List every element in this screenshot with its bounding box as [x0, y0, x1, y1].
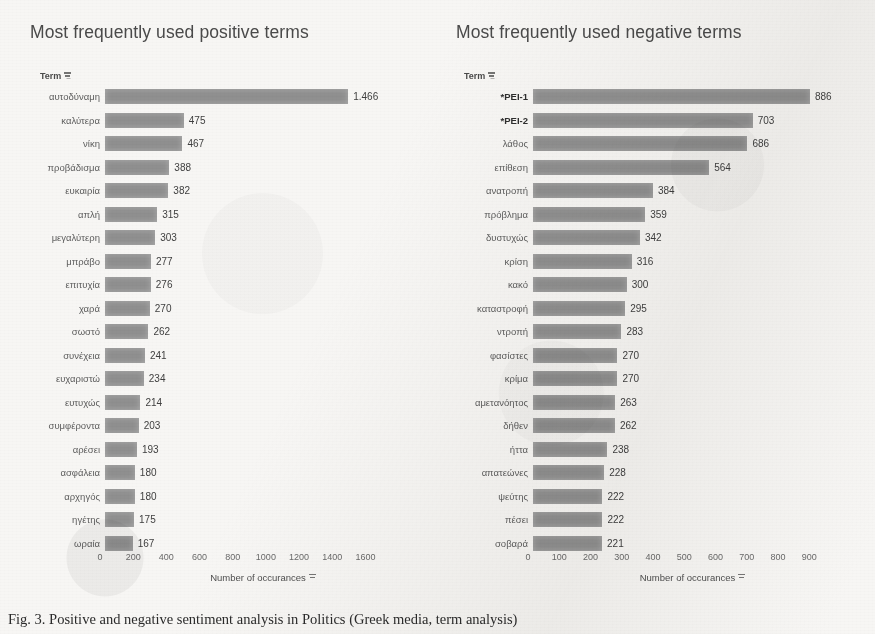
filter-icon[interactable]	[309, 574, 316, 582]
bar[interactable]	[105, 160, 169, 175]
bar[interactable]	[533, 418, 615, 433]
bar-value-label: 238	[612, 444, 629, 455]
bar-row: επιτυχία276	[0, 273, 440, 297]
bar-row-term-label: χαρά	[0, 303, 105, 314]
bar-track: 263	[533, 391, 875, 415]
filter-icon[interactable]	[64, 72, 71, 80]
bar[interactable]	[105, 324, 148, 339]
axis-tick-label: 900	[802, 552, 817, 562]
bar[interactable]	[105, 442, 137, 457]
bar[interactable]	[105, 489, 135, 504]
bar-value-label: 276	[156, 279, 173, 290]
bar-row-term-label: κρίση	[440, 256, 533, 267]
bar-row-term-label: πρόβλημα	[440, 209, 533, 220]
bar[interactable]	[105, 348, 145, 363]
bar[interactable]	[533, 89, 810, 104]
bar[interactable]	[533, 301, 625, 316]
bar[interactable]	[533, 348, 617, 363]
bar[interactable]	[533, 113, 753, 128]
bar[interactable]	[533, 230, 640, 245]
bar[interactable]	[105, 230, 155, 245]
bar-track: 228	[533, 461, 875, 485]
bar[interactable]	[105, 301, 150, 316]
bar-row: απατεώνες228	[440, 461, 875, 485]
bar-row: *ΡΕΙ-1886	[440, 85, 875, 109]
bar-value-label: 283	[626, 326, 643, 337]
bar[interactable]	[533, 207, 645, 222]
bar-track: 214	[105, 391, 440, 415]
bar-row-term-label: επίθεση	[440, 162, 533, 173]
figure-caption: Fig. 3. Positive and negative sentiment …	[8, 611, 868, 634]
bar-row: ψεύτης222	[440, 485, 875, 509]
bar[interactable]	[533, 160, 709, 175]
bar[interactable]	[533, 536, 602, 551]
bar-row: προβάδισμα388	[0, 156, 440, 180]
axis-tick-label: 200	[583, 552, 598, 562]
bar-row-term-label: συμφέροντα	[0, 420, 105, 431]
bar[interactable]	[533, 254, 632, 269]
bar[interactable]	[533, 465, 604, 480]
axis-tick-label: 100	[552, 552, 567, 562]
bar[interactable]	[533, 136, 747, 151]
term-column-header-positive[interactable]: Term	[40, 71, 71, 81]
bar[interactable]	[533, 395, 615, 410]
bar-row: καταστροφή295	[440, 297, 875, 321]
term-column-header-negative[interactable]: Term	[464, 71, 495, 81]
bar-value-label: 886	[815, 91, 832, 102]
bar[interactable]	[533, 371, 617, 386]
bar-track: 382	[105, 179, 440, 203]
bar[interactable]	[533, 442, 607, 457]
bar[interactable]	[105, 113, 184, 128]
bar-value-label: 221	[607, 538, 624, 549]
bar[interactable]	[105, 371, 144, 386]
bar-track: 262	[533, 414, 875, 438]
bar-value-label: 295	[630, 303, 647, 314]
bar-row-term-label: σοβαρά	[440, 538, 533, 549]
term-header-label: Term	[40, 71, 61, 81]
bar-row-term-label: ευτυχώς	[0, 397, 105, 408]
bar[interactable]	[105, 183, 168, 198]
filter-icon[interactable]	[488, 72, 495, 80]
bar-value-label: 1.466	[353, 91, 378, 102]
bar-row: νίκη467	[0, 132, 440, 156]
bar-row: δυστυχώς342	[440, 226, 875, 250]
bar[interactable]	[105, 418, 139, 433]
bar-row-term-label: *ΡΕΙ-1	[440, 91, 533, 102]
filter-icon[interactable]	[738, 574, 745, 582]
bar-row: *ΡΕΙ-2703	[440, 109, 875, 133]
bar-track: 180	[105, 461, 440, 485]
bar[interactable]	[533, 489, 602, 504]
bar[interactable]	[105, 277, 151, 292]
axis-tick-label: 1400	[322, 552, 342, 562]
bar-row-term-label: επιτυχία	[0, 279, 105, 290]
bar[interactable]	[105, 395, 140, 410]
chart-title-positive: Most frequently used positive terms	[30, 22, 309, 43]
axis-tick-label: 1600	[355, 552, 375, 562]
bar[interactable]	[105, 512, 134, 527]
bar-value-label: 270	[155, 303, 172, 314]
bar-row: καλύτερα475	[0, 109, 440, 133]
bar-row-term-label: καταστροφή	[440, 303, 533, 314]
axis-tick-label: 0	[97, 552, 102, 562]
bar-value-label: 342	[645, 232, 662, 243]
bar-row: ασφάλεια180	[0, 461, 440, 485]
bar[interactable]	[105, 536, 133, 551]
bar[interactable]	[105, 136, 182, 151]
axis-tick-label: 800	[770, 552, 785, 562]
bar-value-label: 382	[173, 185, 190, 196]
bar[interactable]	[533, 324, 621, 339]
bar-row-term-label: απλή	[0, 209, 105, 220]
bar-track: 886	[533, 85, 875, 109]
bar-track: 203	[105, 414, 440, 438]
bar[interactable]	[105, 465, 135, 480]
bar[interactable]	[533, 183, 653, 198]
bar[interactable]	[105, 207, 157, 222]
bar[interactable]	[105, 89, 348, 104]
axis-tick-label: 400	[645, 552, 660, 562]
bar-track: 384	[533, 179, 875, 203]
bar-track: 315	[105, 203, 440, 227]
bar[interactable]	[533, 512, 602, 527]
bar[interactable]	[533, 277, 627, 292]
bar[interactable]	[105, 254, 151, 269]
bar-row: απλή315	[0, 203, 440, 227]
